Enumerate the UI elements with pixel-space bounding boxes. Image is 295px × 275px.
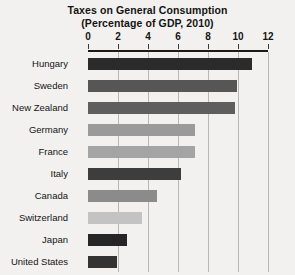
bar-row: New Zealand bbox=[0, 98, 295, 120]
bar-row: France bbox=[0, 142, 295, 164]
bar-row: United States bbox=[0, 252, 295, 274]
bar-row: Canada bbox=[0, 186, 295, 208]
bar bbox=[88, 168, 181, 180]
x-axis-tick-label: 10 bbox=[232, 31, 243, 43]
bar-category-label: France bbox=[0, 146, 68, 157]
bar-category-label: Canada bbox=[0, 190, 68, 201]
x-axis-tick-mark bbox=[238, 44, 239, 49]
bar-row: Sweden bbox=[0, 76, 295, 98]
bar-category-label: United States bbox=[0, 256, 68, 267]
x-axis-tick-label: 12 bbox=[262, 31, 273, 43]
bar-category-label: Sweden bbox=[0, 80, 68, 91]
bar bbox=[88, 102, 235, 114]
bar-row: Italy bbox=[0, 164, 295, 186]
bar bbox=[88, 256, 117, 268]
x-axis-tick-labels: 024681012 bbox=[88, 31, 268, 44]
bar-row: Switzerland bbox=[0, 208, 295, 230]
x-axis-tick-mark bbox=[88, 44, 89, 49]
x-axis-tick-mark bbox=[118, 44, 119, 49]
chart-title-block: Taxes on General Consumption (Percentage… bbox=[0, 4, 295, 30]
x-axis-tick-label: 4 bbox=[145, 31, 151, 43]
bar-chart: Taxes on General Consumption (Percentage… bbox=[0, 0, 295, 275]
x-axis-tick-label: 2 bbox=[115, 31, 121, 43]
bar-row: Hungary bbox=[0, 54, 295, 76]
bar bbox=[88, 58, 252, 70]
x-axis-tick-mark bbox=[148, 44, 149, 49]
bar bbox=[88, 234, 127, 246]
bar bbox=[88, 124, 195, 136]
x-axis-tick-mark bbox=[268, 44, 269, 49]
x-axis-tick-label: 8 bbox=[205, 31, 211, 43]
bar bbox=[88, 190, 157, 202]
bar-category-label: Japan bbox=[0, 234, 68, 245]
bar bbox=[88, 80, 237, 92]
bar-category-label: Italy bbox=[0, 168, 68, 179]
x-axis-tick-label: 0 bbox=[85, 31, 91, 43]
bar-category-label: Hungary bbox=[0, 58, 68, 69]
x-axis-tick-label: 6 bbox=[175, 31, 181, 43]
bar-category-label: Switzerland bbox=[0, 212, 68, 223]
bar-row: Japan bbox=[0, 230, 295, 252]
bar bbox=[88, 146, 195, 158]
chart-title: Taxes on General Consumption bbox=[0, 4, 295, 17]
bar-row: Germany bbox=[0, 120, 295, 142]
x-axis-tick-mark bbox=[208, 44, 209, 49]
bar-category-label: Germany bbox=[0, 124, 68, 135]
bar bbox=[88, 212, 142, 224]
bar-category-label: New Zealand bbox=[0, 102, 68, 113]
x-axis-tick-mark bbox=[178, 44, 179, 49]
chart-subtitle: (Percentage of GDP, 2010) bbox=[0, 17, 295, 30]
